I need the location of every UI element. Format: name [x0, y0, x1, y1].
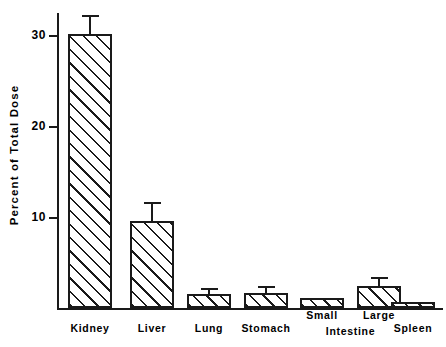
y-axis-spine — [57, 13, 59, 310]
plot-area: 302010 — [57, 13, 443, 310]
y-axis-tick-label: 20 — [31, 119, 46, 133]
y-axis-tick-mark — [49, 126, 57, 128]
bar — [244, 293, 288, 308]
x-axis-label: Spleen — [394, 322, 433, 334]
bar-chart-figure: Percent of Total Dose 302010 KidneyLiver… — [0, 0, 446, 347]
y-axis-title: Percent of Total Dose — [0, 0, 28, 310]
bar — [391, 302, 435, 308]
error-bar-stem — [89, 15, 91, 34]
x-axis-label: Liver — [138, 322, 167, 334]
bar — [68, 34, 112, 308]
x-axis-label-small: Small — [306, 309, 338, 321]
error-bar-cap — [258, 286, 275, 288]
x-axis-label-intestine: Intestine — [326, 325, 375, 337]
x-axis-label-large: Large — [363, 309, 395, 321]
y-axis-tick-mark — [49, 35, 57, 37]
y-axis-tick-mark — [49, 217, 57, 219]
y-axis-tick-label: 30 — [31, 28, 46, 42]
y-axis-title-text: Percent of Total Dose — [8, 85, 20, 225]
bar — [130, 221, 174, 308]
error-bar-cap — [201, 288, 218, 290]
x-axis-label: Lung — [195, 322, 223, 334]
y-axis-tick-label: 10 — [31, 210, 46, 224]
error-bar-cap — [82, 15, 99, 17]
bar — [300, 298, 344, 308]
error-bar-stem — [151, 202, 153, 220]
error-bar-cap — [144, 202, 161, 204]
bar — [187, 294, 231, 308]
error-bar-cap — [371, 277, 388, 279]
x-axis-label: Kidney — [70, 322, 109, 334]
x-axis-label: Stomach — [241, 322, 290, 334]
